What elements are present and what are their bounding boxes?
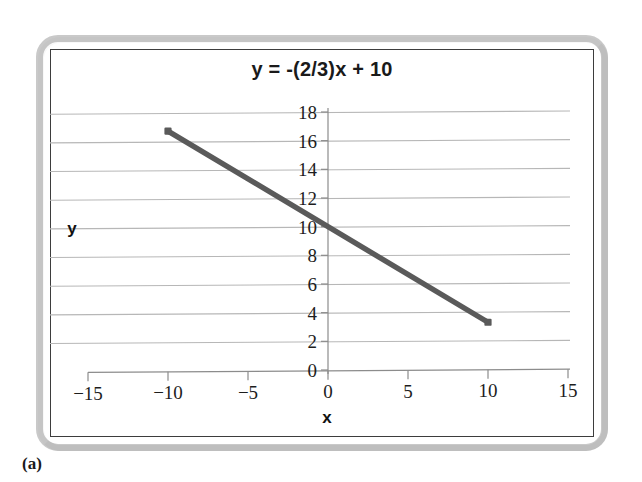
y-tick-label-16: 16 [298,131,317,152]
x-tick-labels-group: −15−10−5051015 [73,380,577,404]
y-tick-label-18: 18 [298,102,317,123]
series-endpoint-marker [164,127,171,134]
x-tick-label-0: 0 [323,381,333,402]
panel-caption: (a) [22,454,42,474]
y-tick-label-6: 6 [308,274,318,295]
x-tick-label--5: −5 [238,382,258,403]
y-axis-label: y [67,219,77,238]
x-tick-label-5: 5 [403,381,413,402]
x-tick-label-10: 10 [479,380,498,401]
x-tick-label-15: 15 [559,380,578,401]
plot-area: 024681012141618 −15−10−5051015 x y [50,49,594,437]
x-axis-label: x [322,408,332,427]
y-tick-label-4: 4 [308,303,318,324]
axis-lines-group [88,108,570,374]
x-tick-label--15: −15 [73,383,103,404]
y-tick-labels-group: 024681012141618 [298,102,318,381]
y-tick-label-0: 0 [308,360,318,381]
y-tick-label-8: 8 [308,245,318,266]
y-tick-marks-group [321,112,328,370]
y-tick-label-12: 12 [298,188,317,209]
y-tick-label-2: 2 [308,331,318,352]
series-endpoint-marker [484,319,491,326]
x-axis-line [88,369,570,372]
x-tick-label--10: −10 [153,382,183,403]
y-tick-label-14: 14 [298,159,318,180]
